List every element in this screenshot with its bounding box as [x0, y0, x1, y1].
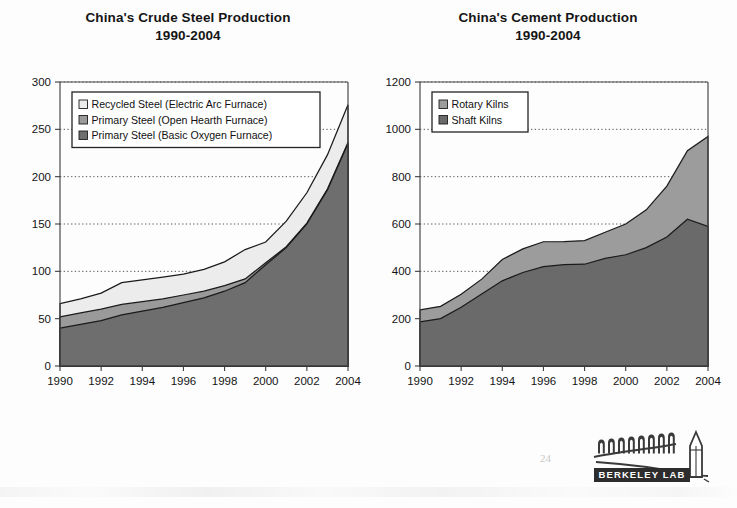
chart-title-cement: China's Cement Production 1990-2004 — [368, 0, 728, 45]
y-tick-label: 150 — [32, 218, 51, 230]
x-axis-ticks: 19901992199419961998200020022004 — [407, 366, 721, 387]
slide-canvas: China's Crude Steel Production 1990-2004… — [0, 0, 737, 508]
legend-label: Primary Steel (Basic Oxygen Furnace) — [92, 129, 273, 141]
y-tick-label: 100 — [32, 265, 51, 277]
legend-label: Shaft Kilns — [452, 114, 503, 126]
x-axis-ticks: 19901992199419961998200020022004 — [47, 366, 361, 387]
y-tick-label: 250 — [32, 123, 51, 135]
x-tick-label: 1998 — [572, 375, 598, 387]
y-tick-label: 1000 — [385, 123, 411, 135]
y-axis-ticks: 050100150200250300 — [32, 76, 60, 372]
legend-swatch — [439, 116, 448, 125]
x-tick-label: 2004 — [695, 375, 721, 387]
x-tick-label: 2000 — [253, 375, 279, 387]
x-tick-label: 2000 — [613, 375, 639, 387]
page-number: 24 — [540, 452, 551, 464]
x-tick-label: 1998 — [212, 375, 238, 387]
x-tick-label: 1990 — [47, 375, 73, 387]
chart-panel-cement: China's Cement Production 1990-2004 0200… — [368, 0, 728, 430]
x-tick-label: 1994 — [129, 375, 155, 387]
x-tick-label: 2002 — [654, 375, 680, 387]
logo-tower-icon — [690, 432, 702, 477]
x-tick-label: 2004 — [335, 375, 361, 387]
area-series-group — [420, 136, 708, 366]
y-tick-label: 400 — [392, 265, 411, 277]
chart-title-line1: China's Crude Steel Production — [86, 10, 291, 25]
legend-label: Primary Steel (Open Hearth Furnace) — [92, 114, 268, 126]
chart-title-line2: 1990-2004 — [8, 27, 368, 45]
legend-swatch — [439, 100, 448, 109]
x-tick-label: 1992 — [448, 375, 474, 387]
chart-legend: Recycled Steel (Electric Arc Furnace)Pri… — [72, 92, 320, 148]
x-tick-label: 1996 — [171, 375, 197, 387]
y-tick-label: 200 — [392, 313, 411, 325]
y-tick-label: 600 — [392, 218, 411, 230]
y-tick-label: 50 — [38, 313, 51, 325]
chart-title-line2: 1990-2004 — [368, 27, 728, 45]
y-tick-label: 300 — [32, 76, 51, 88]
y-axis-ticks: 020040060080010001200 — [385, 76, 420, 372]
y-tick-label: 800 — [392, 171, 411, 183]
x-tick-label: 1990 — [407, 375, 433, 387]
y-tick-label: 0 — [405, 360, 411, 372]
berkeley-lab-logo-graphic: BERKELEY LAB — [592, 424, 732, 496]
logo-wordmark-text: BERKELEY LAB — [599, 469, 686, 480]
legend-swatch — [79, 116, 88, 125]
legend-swatch — [79, 100, 88, 109]
x-tick-label: 2002 — [294, 375, 320, 387]
legend-label: Rotary Kilns — [452, 98, 509, 110]
logo-tail — [704, 479, 709, 482]
berkeley-lab-logo: BERKELEY LAB — [592, 424, 732, 496]
logo-wordmark: BERKELEY LAB — [594, 468, 690, 482]
chart-legend: Rotary KilnsShaft Kilns — [432, 92, 528, 132]
y-tick-label: 200 — [32, 171, 51, 183]
x-tick-label: 1996 — [531, 375, 557, 387]
x-tick-label: 1994 — [489, 375, 515, 387]
chart-title-line1: China's Cement Production — [459, 10, 638, 25]
y-tick-label: 0 — [45, 360, 51, 372]
cement-area-chart: 0200400600800100012001990199219941996199… — [368, 56, 728, 416]
y-tick-label: 1200 — [385, 76, 411, 88]
chart-plot-cement: 0200400600800100012001990199219941996199… — [368, 56, 728, 416]
x-tick-label: 1992 — [88, 375, 114, 387]
chart-plot-crude-steel: 0501001502002503001990199219941996199820… — [8, 56, 368, 416]
chart-title-crude-steel: China's Crude Steel Production 1990-2004 — [8, 0, 368, 45]
legend-swatch — [79, 131, 88, 140]
crude-steel-area-chart: 0501001502002503001990199219941996199820… — [8, 56, 368, 416]
chart-panel-crude-steel: China's Crude Steel Production 1990-2004… — [8, 0, 368, 430]
legend-label: Recycled Steel (Electric Arc Furnace) — [92, 98, 267, 110]
